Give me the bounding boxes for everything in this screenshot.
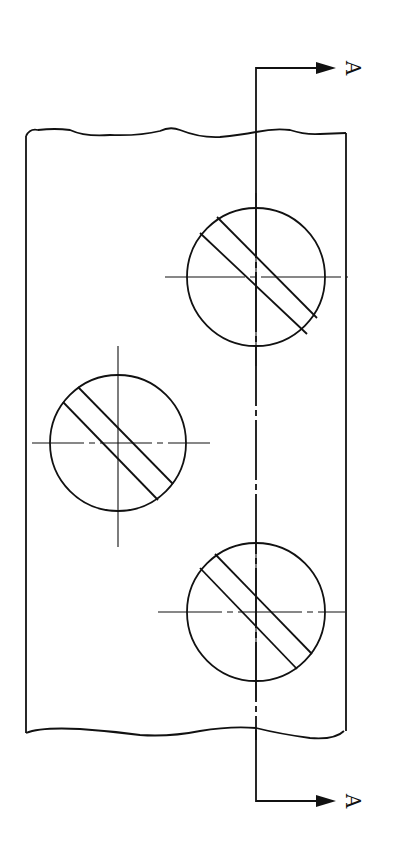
section-label-top: A — [343, 61, 363, 75]
hole-left — [32, 346, 210, 547]
section-label-bottom: A — [343, 794, 363, 808]
hole-bottom-right — [158, 540, 345, 700]
section-line-bottom — [256, 730, 322, 801]
section-line-top — [256, 68, 322, 198]
technical-drawing — [0, 0, 399, 868]
plate-top-break-line — [26, 128, 346, 137]
plate-bottom-break-line — [26, 727, 344, 738]
hole-top-right — [165, 193, 348, 366]
section-arrow-top-icon — [316, 62, 336, 74]
section-arrow-bottom-icon — [316, 795, 336, 807]
